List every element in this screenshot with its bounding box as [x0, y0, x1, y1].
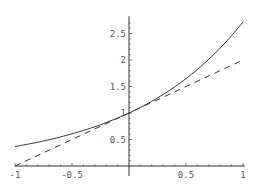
axes [15, 16, 245, 176]
chart: -1-0.50.510.511.522.5 [0, 0, 258, 191]
y-tick-label: 2 [121, 55, 126, 65]
y-tick-label: 1.5 [110, 82, 126, 92]
x-tick-label: 1 [240, 170, 245, 180]
y-tick-label: 0.5 [110, 135, 126, 145]
y-tick-label: 2.5 [110, 29, 126, 39]
x-tick-label: -0.5 [61, 170, 83, 180]
tick-labels: -1-0.50.510.511.522.5 [10, 29, 246, 181]
y-tick-label: 1 [121, 108, 126, 118]
x-tick-label: 0.5 [178, 170, 194, 180]
x-tick-label: -1 [10, 170, 21, 180]
